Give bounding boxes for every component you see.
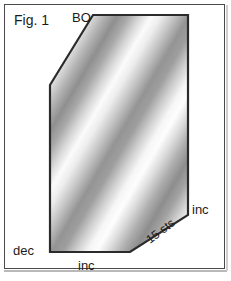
label-decrease: dec [13, 244, 34, 257]
label-bind-off: BO [72, 11, 91, 24]
figure-container: Fig. 1 BO dec inc inc 15 sts [0, 0, 231, 281]
figure-title: Fig. 1 [14, 13, 49, 27]
label-increase-right: inc [192, 203, 209, 216]
label-increase-bottom: inc [78, 259, 95, 272]
schematic-shape-canvas [0, 0, 231, 281]
